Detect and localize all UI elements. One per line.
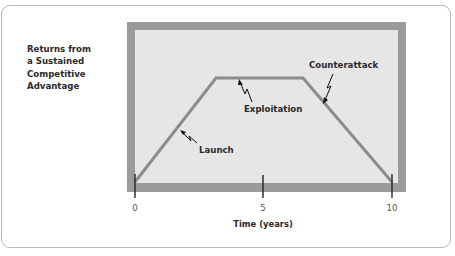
tick-label-0: 0 — [132, 203, 137, 213]
y-axis-label: Returns from a Sustained Competitive Adv… — [27, 43, 127, 93]
tick-label-5: 5 — [260, 203, 265, 213]
tick-label-10: 10 — [387, 203, 398, 213]
exploitation-label: Exploitation — [244, 104, 302, 114]
x-axis-label: Time (years) — [233, 219, 292, 229]
chart-svg — [0, 0, 455, 256]
launch-label: Launch — [199, 145, 234, 155]
counterattack-label: Counterattack — [309, 60, 378, 70]
